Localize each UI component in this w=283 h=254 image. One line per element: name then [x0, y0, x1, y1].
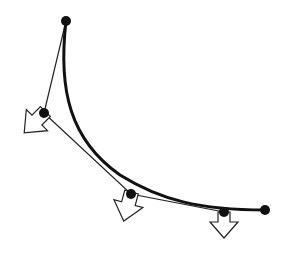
arrow-icon [14, 101, 56, 143]
smooth-curve [64, 21, 265, 210]
control-point [126, 189, 136, 199]
control-point [39, 108, 49, 118]
control-point [219, 207, 229, 217]
curve-diagram [0, 0, 283, 254]
control-point [61, 16, 71, 26]
control-point [260, 205, 270, 215]
